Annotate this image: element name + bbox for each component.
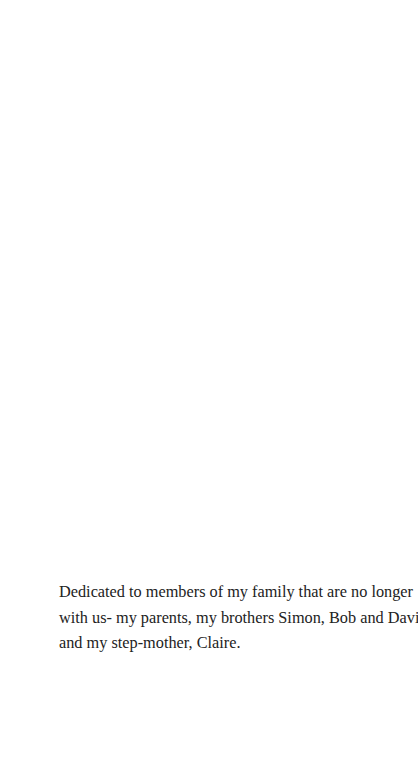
dedication-line-1: Dedicated to members of my family that a… bbox=[59, 579, 404, 605]
dedication-line-2: with us- my parents, my brothers Simon, … bbox=[59, 605, 404, 631]
dedication-paragraph: Dedicated to members of my family that a… bbox=[59, 579, 404, 656]
dedication-line-3: and my step-mother, Claire. bbox=[59, 630, 404, 656]
document-page: Dedicated to members of my family that a… bbox=[0, 0, 418, 767]
